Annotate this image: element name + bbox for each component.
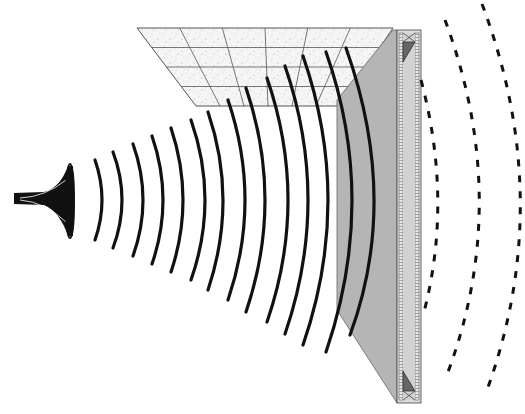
horn-icon bbox=[14, 164, 74, 238]
frame-rail-left bbox=[399, 33, 403, 400]
sound-reflection-diagram bbox=[0, 0, 525, 414]
wave-arc bbox=[171, 128, 183, 272]
frame-inner bbox=[403, 33, 415, 400]
dashed-wave-arc bbox=[445, 20, 479, 372]
wave-arc bbox=[208, 112, 223, 290]
horn-tube bbox=[14, 166, 73, 236]
frame-rail-right bbox=[415, 33, 419, 400]
wall-panel bbox=[337, 30, 421, 403]
dashed-wave-arc bbox=[482, 4, 520, 390]
wave-arc bbox=[228, 100, 245, 300]
transmitted-waves bbox=[421, 4, 520, 390]
wave-arc bbox=[133, 144, 143, 256]
wave-arc bbox=[95, 160, 102, 240]
wave-arc bbox=[113, 152, 122, 248]
dashed-wave-arc bbox=[421, 80, 438, 312]
wave-arc bbox=[152, 136, 163, 264]
wave-arc bbox=[267, 78, 288, 322]
wave-arc bbox=[191, 120, 205, 280]
wave-arc bbox=[246, 88, 265, 312]
